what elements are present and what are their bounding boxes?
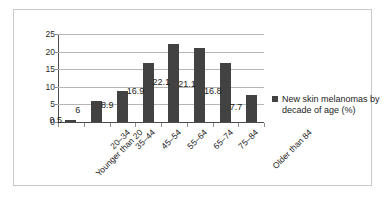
y-axis-tick — [55, 34, 58, 35]
bar-value-label: 7.7 — [230, 103, 243, 112]
bar-value-label: 22.1 — [152, 78, 170, 87]
x-axis-category-label: Older than 84 — [271, 128, 313, 170]
y-axis-tick — [55, 69, 58, 70]
y-tick-label: 10 — [25, 83, 55, 92]
x-axis-tick — [264, 123, 265, 127]
chart-legend: New skin melanomas by decade of age (%) — [272, 94, 380, 117]
bar — [143, 63, 154, 122]
bar-value-label: 0.5 — [49, 116, 62, 125]
bar-value-label: 16.8 — [204, 87, 222, 96]
bar — [220, 63, 231, 122]
y-axis-tick — [55, 87, 58, 88]
bar-value-label: 6 — [75, 106, 80, 115]
y-tick-label: 25 — [25, 30, 55, 39]
x-axis-category-label: 75–84 — [237, 128, 260, 151]
gridline — [58, 69, 264, 70]
bar — [65, 120, 76, 122]
bar-value-label: 8.9 — [101, 101, 114, 110]
x-axis-category-label: 55–64 — [186, 128, 209, 151]
gridline — [58, 52, 264, 53]
x-axis-tick — [110, 123, 111, 127]
x-axis-tick — [58, 123, 59, 127]
y-tick-label: 5 — [25, 100, 55, 109]
gridline — [58, 34, 264, 35]
bar — [246, 95, 257, 122]
x-axis-tick — [238, 123, 239, 127]
x-axis-tick — [161, 123, 162, 127]
x-axis-category-label: 45–54 — [160, 128, 183, 151]
legend-label: New skin melanomas by decade of age (%) — [282, 94, 380, 117]
y-tick-label: 15 — [25, 65, 55, 74]
x-axis-tick — [135, 123, 136, 127]
x-axis-tick — [187, 123, 188, 127]
legend-entry: New skin melanomas by decade of age (%) — [272, 94, 380, 117]
chart-frame: 0510152025 0.568.916.922.121.116.87.7 Yo… — [13, 9, 372, 186]
x-axis-category-label: 65–74 — [212, 128, 235, 151]
legend-color-swatch — [272, 96, 278, 102]
y-axis: 0510152025 — [22, 10, 55, 198]
bar-value-label: 16.9 — [127, 87, 145, 96]
x-axis-tick — [84, 123, 85, 127]
x-axis-tick — [213, 123, 214, 127]
y-axis-tick — [55, 52, 58, 53]
bar-value-label: 21.1 — [178, 80, 196, 89]
y-axis-tick — [55, 104, 58, 105]
bar — [194, 48, 205, 122]
y-tick-label: 20 — [25, 48, 55, 57]
